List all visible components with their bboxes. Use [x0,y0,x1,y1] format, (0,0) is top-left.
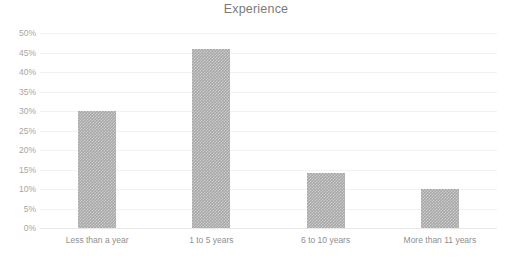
y-axis-tick-labels: 50%45%40%35%30%25%20%15%10%5%0% [0,33,36,228]
bar-chart: Experience 50%45%40%35%30%25%20%15%10%5%… [0,0,512,266]
bar[interactable] [307,173,345,228]
y-axis-tick-label: 30% [2,107,36,116]
x-axis-category-label: Less than a year [40,236,154,245]
gridline [40,53,497,54]
y-axis-tick-label: 20% [2,146,36,155]
bar[interactable] [192,49,230,228]
y-axis-tick-label: 40% [2,68,36,77]
y-axis-tick-label: 25% [2,127,36,136]
gridline [40,72,497,73]
x-axis-category-label: More than 11 years [383,236,497,245]
plot-area [40,33,497,228]
y-axis-tick-label: 50% [2,29,36,38]
y-axis-tick-label: 5% [2,205,36,214]
y-axis-tick-label: 0% [2,224,36,233]
y-axis-tick-label: 45% [2,49,36,58]
y-axis-tick-label: 35% [2,88,36,97]
x-axis-category-label: 1 to 5 years [154,236,268,245]
chart-title: Experience [0,2,512,16]
gridline [40,33,497,34]
axis-baseline [40,228,497,229]
y-axis-tick-label: 15% [2,166,36,175]
y-axis-tick-label: 10% [2,185,36,194]
x-axis-category-label: 6 to 10 years [269,236,383,245]
bar[interactable] [78,111,116,228]
gridline [40,92,497,93]
bar[interactable] [421,189,459,228]
